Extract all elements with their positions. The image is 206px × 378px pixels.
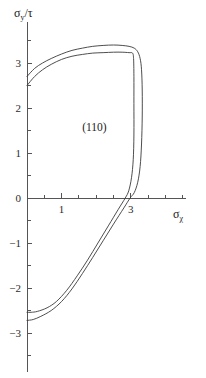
y-axis-label: σy/τ	[14, 6, 33, 22]
y-tick-label: −2	[9, 282, 21, 294]
x-axis-label-subscript: χ	[178, 214, 183, 223]
y-tick-label: 0	[16, 192, 22, 204]
y-tick-label: 1	[16, 147, 22, 159]
x-tick-label: 1	[59, 203, 65, 215]
x-axis-label: σχ	[173, 207, 183, 223]
chart-figure: 13−3−2−10123 σy/τ σχ (110)	[0, 0, 206, 378]
y-tick-label: 2	[16, 102, 22, 114]
inner-yield-locus	[27, 52, 134, 312]
y-tick-label: −3	[9, 327, 21, 339]
x-tick-label: 3	[128, 203, 134, 215]
y-tick-label: −1	[9, 237, 21, 249]
y-tick-label: 3	[16, 57, 22, 69]
plot-annotation: (110)	[82, 121, 107, 134]
yield-locus-plot: 13−3−2−10123 σy/τ σχ (110)	[0, 0, 206, 378]
data-curves	[27, 45, 142, 320]
y-axis-label-tail: /τ	[24, 6, 32, 20]
outer-yield-locus	[27, 45, 142, 320]
axis-group	[27, 22, 186, 372]
